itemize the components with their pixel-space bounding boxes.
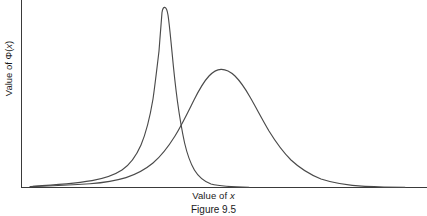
y-axis-label-symbol: Φ( [3,49,14,60]
y-axis-label-variable: x [3,44,14,49]
curve-broad-short [30,69,405,187]
x-axis-label-prefix: Value of [192,190,230,201]
x-axis-label-variable: x [230,190,235,201]
distribution-plot [0,0,427,216]
figure-caption: Figure 9.5 [0,204,427,216]
y-axis-label-suffix: ) [3,41,14,44]
y-axis-label-prefix: Value of [3,59,14,96]
y-axis-label: Value of Φ(x) [3,14,14,124]
curve-narrow-tall [33,7,249,187]
x-axis-label: Value of x [0,190,427,201]
figure-container: Value of Φ(x) Value of x Figure 9.5 [0,0,427,216]
